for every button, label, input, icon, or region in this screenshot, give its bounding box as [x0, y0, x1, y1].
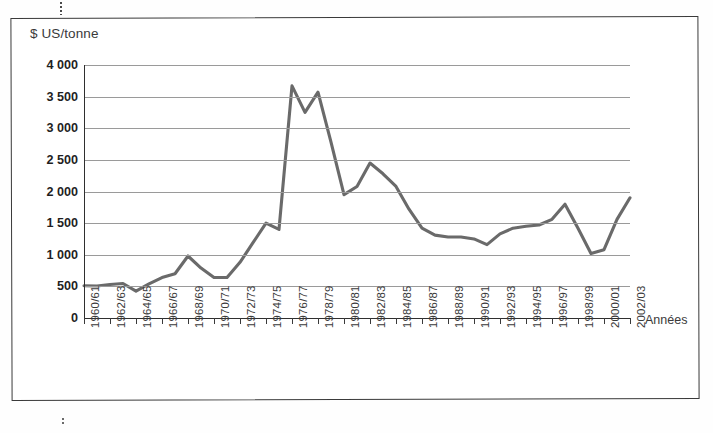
x-axis-tick-label: 1974/75 — [271, 285, 283, 328]
line-chart: $ US/tonne Années 05001 0001 5002 0002 5… — [0, 0, 713, 433]
gridline — [84, 192, 630, 193]
x-axis-tick-label: 1980/81 — [349, 285, 361, 328]
x-axis-tick — [604, 318, 605, 324]
y-axis-tick-label: 1 000 — [22, 248, 78, 262]
x-axis-tick — [110, 318, 111, 324]
x-axis-tick — [188, 318, 189, 324]
x-axis-tick-label: 1960/61 — [89, 285, 101, 328]
x-axis-tick — [500, 318, 501, 324]
y-axis-line — [84, 65, 85, 319]
gridline — [84, 65, 630, 66]
gridline — [84, 97, 630, 98]
gridline — [84, 255, 630, 256]
x-axis-tick-label: 1964/65 — [141, 285, 153, 328]
x-axis-tick — [84, 318, 85, 324]
x-axis-tick-label: 1994/95 — [531, 285, 543, 328]
y-axis-tick-label: 0 — [22, 311, 78, 325]
x-axis-tick — [214, 318, 215, 324]
y-axis-tick-label: 3 000 — [22, 121, 78, 135]
x-axis-tick — [318, 318, 319, 324]
x-axis-tick-label: 1990/91 — [479, 285, 491, 328]
x-axis-tick — [630, 318, 631, 324]
y-axis-tick-label: 4 000 — [22, 58, 78, 72]
y-axis-tick-label: 2 500 — [22, 153, 78, 167]
x-axis-tick — [344, 318, 345, 324]
x-axis-tick — [422, 318, 423, 324]
x-axis-tick — [136, 318, 137, 324]
x-axis-tick — [162, 318, 163, 324]
x-axis-tick-label: 1968/69 — [193, 285, 205, 328]
y-axis-tick-label: 3 500 — [22, 90, 78, 104]
x-axis-tick — [266, 318, 267, 324]
x-axis-tick-label: 1966/67 — [167, 285, 179, 328]
x-axis-tick-label: 1984/85 — [401, 285, 413, 328]
x-axis-tick-label: 1986/87 — [427, 285, 439, 328]
x-axis-tick — [292, 318, 293, 324]
x-axis-tick-label: 2000/01 — [609, 285, 621, 328]
x-axis-tick-label: 1978/79 — [323, 285, 335, 328]
x-axis-tick-label: 2002/03 — [635, 285, 647, 328]
x-axis-tick — [240, 318, 241, 324]
x-axis-title: Années — [645, 313, 687, 327]
x-axis-tick — [578, 318, 579, 324]
x-axis-tick-label: 1988/89 — [453, 285, 465, 328]
y-axis-tick-label: 500 — [22, 279, 78, 293]
x-axis-tick — [474, 318, 475, 324]
x-axis-tick-label: 1976/77 — [297, 285, 309, 328]
x-axis-tick-label: 1992/93 — [505, 285, 517, 328]
x-axis-tick — [526, 318, 527, 324]
x-axis-tick-label: 1962/63 — [115, 285, 127, 328]
screenshot-page: $ US/tonne Années 05001 0001 5002 0002 5… — [0, 0, 713, 433]
y-axis-tick-label: 2 000 — [22, 185, 78, 199]
x-axis-tick — [448, 318, 449, 324]
plot-area — [84, 65, 630, 318]
x-axis-tick — [552, 318, 553, 324]
x-axis-tick — [370, 318, 371, 324]
x-axis-tick-label: 1998/99 — [583, 285, 595, 328]
gridline — [84, 128, 630, 129]
y-axis-tick-label: 1 500 — [22, 216, 78, 230]
y-axis-tick-labels: 05001 0001 5002 0002 5003 0003 5004 000 — [22, 0, 78, 433]
x-axis-tick-label: 1972/73 — [245, 285, 257, 328]
gridline — [84, 223, 630, 224]
x-axis-tick-label: 1996/97 — [557, 285, 569, 328]
gridline — [84, 160, 630, 161]
x-axis-tick-label: 1970/71 — [219, 285, 231, 328]
x-axis-tick — [396, 318, 397, 324]
x-axis-tick-label: 1982/83 — [375, 285, 387, 328]
